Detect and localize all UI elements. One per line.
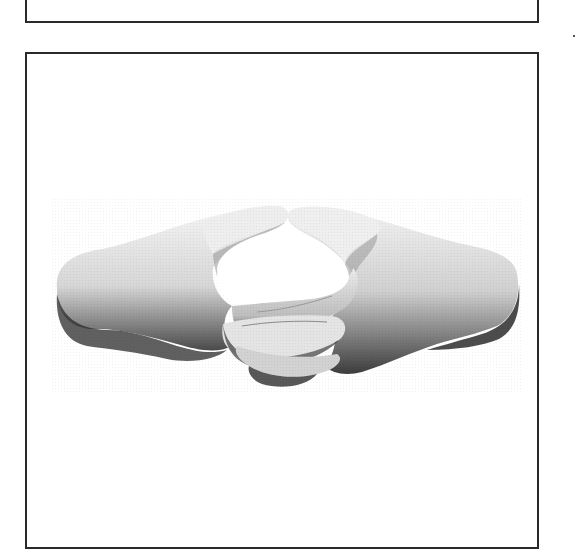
figure-frame: Two hands with fingertips touching, form… bbox=[25, 52, 539, 549]
hands-steeple-image bbox=[27, 54, 537, 547]
top-frame bbox=[25, 0, 539, 23]
stray-dot-mark bbox=[573, 35, 575, 37]
